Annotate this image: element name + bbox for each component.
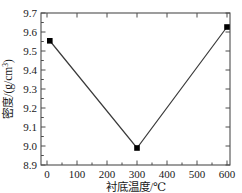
- y-tick-labels: 9.7 9.6 9.5 9.4 9.3 9.2 9.1 9.0 8.9: [23, 7, 37, 171]
- line-chart: 9.7 9.6 9.5 9.4 9.3 9.2 9.1 9.0 8.9 0 10…: [0, 0, 242, 193]
- x-tick-label: 400: [159, 168, 176, 180]
- x-tick-label: 600: [219, 168, 236, 180]
- y-axis-title: 密度/(g/cm3): [1, 59, 15, 119]
- data-point-marker: [134, 145, 140, 151]
- svg-text:密度/(g/cm3): 密度/(g/cm3): [1, 59, 15, 119]
- x-tick-label: 500: [189, 168, 206, 180]
- y-axis-title-base: 密度/(g/cm: [1, 67, 15, 119]
- data-point-marker: [224, 24, 230, 30]
- y-tick-label: 9.4: [23, 64, 37, 76]
- y-tick-label: 9.0: [23, 140, 37, 152]
- x-tick-label: 0: [44, 168, 50, 180]
- y-tick-label: 9.5: [23, 45, 37, 57]
- chart-figure: 9.7 9.6 9.5 9.4 9.3 9.2 9.1 9.0 8.9 0 10…: [0, 0, 242, 193]
- data-point-marker: [47, 38, 53, 44]
- x-tick-label: 200: [99, 168, 116, 180]
- y-tick-label: 9.1: [23, 121, 37, 133]
- y-tick-label: 8.9: [23, 159, 37, 171]
- x-axis-title: 衬底温度/℃: [106, 180, 166, 193]
- y-tick-label: 9.6: [23, 26, 37, 38]
- x-tick-label: 300: [129, 168, 146, 180]
- x-tick-label: 100: [69, 168, 86, 180]
- y-tick-label: 9.7: [23, 7, 37, 19]
- y-tick-label: 9.2: [23, 102, 37, 114]
- y-axis-title-tail: ): [2, 59, 15, 63]
- y-tick-label: 9.3: [23, 83, 37, 95]
